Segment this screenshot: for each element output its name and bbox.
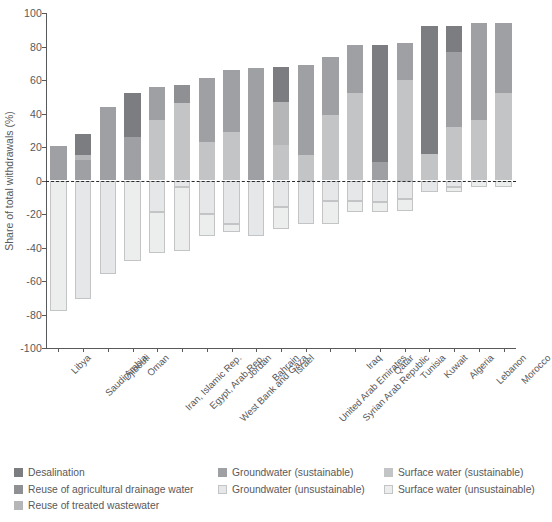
- bar-segment-negative: [322, 181, 338, 201]
- y-tick-label: 40: [30, 108, 42, 119]
- y-tick-label: -40: [26, 242, 42, 253]
- bar-segment: [75, 134, 91, 156]
- y-tick-label: -100: [20, 343, 42, 354]
- bar-segment-negative: [421, 181, 437, 193]
- y-tick-mark: [42, 248, 46, 249]
- bar-segment: [322, 115, 338, 180]
- bar-segment: [372, 162, 388, 180]
- bar-segment-negative: [124, 181, 140, 261]
- y-axis-label: Share of total withdrawals (%): [2, 13, 16, 348]
- bar-segment-negative: [446, 187, 462, 192]
- bar-segment: [149, 87, 165, 121]
- bar-segment-negative: [223, 181, 239, 225]
- legend-swatch-icon: [384, 485, 393, 494]
- bar-segment-negative: [372, 181, 388, 203]
- bar-segment: [298, 65, 314, 155]
- bar-segment: [273, 67, 289, 102]
- legend-column: Groundwater (sustainable)Groundwater (un…: [218, 466, 365, 499]
- bar-segment-negative: [149, 212, 165, 252]
- bar-segment: [495, 93, 511, 180]
- bar-segment-negative: [495, 181, 511, 188]
- bar-segment-negative: [248, 181, 264, 236]
- legend-label: Surface water (unsustainable): [398, 483, 535, 496]
- y-tick-mark: [42, 47, 46, 48]
- legend-column: Surface water (sustainable)Surface water…: [384, 466, 535, 499]
- bar-segment: [421, 26, 437, 153]
- y-tick-label: -80: [26, 309, 42, 320]
- bar-segment-negative: [273, 181, 289, 208]
- bar-segment: [199, 78, 215, 142]
- legend-item[interactable]: Desalination: [14, 466, 193, 479]
- bar-segment: [495, 23, 511, 93]
- zero-reference-line: [46, 181, 516, 182]
- x-tick-label: Algeria: [467, 352, 496, 381]
- legend-swatch-icon: [14, 501, 23, 510]
- legend-column: DesalinationReuse of agricultural draina…: [14, 466, 193, 516]
- bar-segment-negative: [471, 181, 487, 188]
- bar-segment-negative: [75, 181, 91, 300]
- legend-swatch-icon: [218, 468, 227, 477]
- bar-segment-negative: [347, 181, 363, 201]
- bar-segment: [223, 70, 239, 132]
- x-axis-label-group: LibyaSaudi ArabiaDjiboutiOmanIran, Islam…: [46, 352, 516, 444]
- y-tick-mark: [42, 114, 46, 115]
- bar-segment-negative: [298, 181, 314, 225]
- legend-item[interactable]: Reuse of treated wastewater: [14, 499, 193, 512]
- bar-segment-negative: [223, 224, 239, 232]
- bar-segment-negative: [397, 199, 413, 211]
- y-tick-label: 20: [30, 142, 42, 153]
- y-tick-label: 60: [30, 75, 42, 86]
- legend-label: Desalination: [28, 466, 85, 479]
- bar-segment: [446, 127, 462, 181]
- bar-segment: [124, 137, 140, 181]
- y-tick-mark: [42, 281, 46, 282]
- bar-segment: [75, 155, 91, 160]
- bar-segment: [322, 57, 338, 116]
- legend-label: Surface water (sustainable): [398, 466, 523, 479]
- x-tick-label: Libya: [69, 352, 93, 376]
- legend-item[interactable]: Groundwater (unsustainable): [218, 483, 365, 496]
- y-tick-label: -60: [26, 276, 42, 287]
- y-tick-label: -20: [26, 209, 42, 220]
- bar-segment: [471, 120, 487, 180]
- bar-segment: [372, 45, 388, 162]
- bar-segment-negative: [322, 201, 338, 224]
- legend-label: Reuse of agricultural drainage water: [28, 483, 193, 496]
- bar-segment: [298, 155, 314, 180]
- bar-segment-negative: [149, 181, 165, 213]
- bar-segment-negative: [446, 181, 462, 188]
- plot-area: 100806040200-20-40-60-80-100: [46, 13, 516, 348]
- legend-item[interactable]: Reuse of agricultural drainage water: [14, 483, 193, 496]
- bar-segment: [75, 160, 91, 180]
- bar-segment: [174, 85, 190, 103]
- bar-segment-negative: [372, 202, 388, 212]
- y-tick-label: 80: [30, 41, 42, 52]
- bar-segment: [446, 26, 462, 51]
- bar-segment: [124, 93, 140, 137]
- chart-legend: DesalinationReuse of agricultural draina…: [14, 466, 522, 518]
- legend-item[interactable]: Surface water (sustainable): [384, 466, 535, 479]
- legend-swatch-icon: [14, 485, 23, 494]
- legend-label: Reuse of treated wastewater: [28, 499, 159, 512]
- bar-segment: [347, 93, 363, 180]
- bar-segment: [471, 23, 487, 120]
- y-tick-mark: [42, 348, 46, 349]
- bar-segment: [149, 120, 165, 180]
- legend-swatch-icon: [218, 485, 227, 494]
- bar-segment-negative: [174, 187, 190, 251]
- bar-segment: [273, 145, 289, 180]
- bar-segment-negative: [100, 181, 116, 275]
- bar-segment: [248, 68, 264, 180]
- bar-segment-negative: [397, 181, 413, 199]
- bar-segment: [100, 107, 116, 181]
- legend-item[interactable]: Surface water (unsustainable): [384, 483, 535, 496]
- y-tick-mark: [42, 147, 46, 148]
- legend-item[interactable]: Groundwater (sustainable): [218, 466, 365, 479]
- y-tick-mark: [42, 214, 46, 215]
- bar-segment-negative: [199, 214, 215, 236]
- x-tick-label: Kuwait: [442, 352, 470, 380]
- x-tick-label: Iraq: [364, 352, 383, 371]
- legend-label: Groundwater (sustainable): [232, 466, 353, 479]
- bar-segment: [397, 80, 413, 181]
